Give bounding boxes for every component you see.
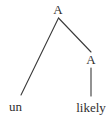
syntax-tree-figure: A A un likely [0, 0, 110, 119]
edge-root-to-un [21, 18, 59, 95]
tree-leaf-likely-label: likely [76, 101, 106, 114]
tree-node-root-label: A [53, 3, 62, 16]
tree-leaf-un-label: un [9, 100, 22, 113]
tree-node-internal-label: A [86, 53, 95, 66]
edge-root-to-inner-a [59, 18, 92, 52]
